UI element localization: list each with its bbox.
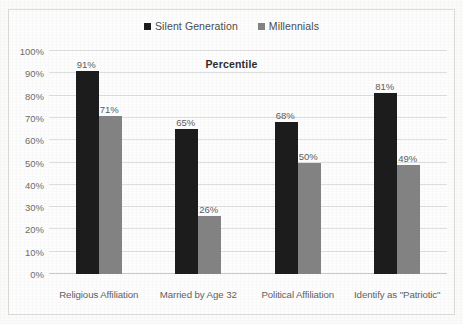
bar-value-label: 26% xyxy=(199,204,218,215)
bar[interactable] xyxy=(198,216,221,274)
y-axis-tick-label: 50% xyxy=(25,157,44,168)
bar-pair: 68%50% xyxy=(275,51,321,274)
bar-wrap: 91% xyxy=(76,51,99,274)
bar-value-label: 71% xyxy=(100,104,119,115)
y-axis-tick-label: 90% xyxy=(25,68,44,79)
bar-wrap: 68% xyxy=(275,51,298,274)
bar[interactable] xyxy=(397,165,420,274)
bar[interactable] xyxy=(99,116,122,274)
chart-frame: Silent Generation Millennials Percentile… xyxy=(8,9,455,315)
x-axis-tick-label: Identify as "Patriotic" xyxy=(348,289,448,300)
chart-legend: Silent Generation Millennials xyxy=(9,20,454,32)
y-axis-tick-label: 70% xyxy=(25,112,44,123)
y-axis-tick-label: 0% xyxy=(30,269,44,280)
y-axis-tick-label: 40% xyxy=(25,179,44,190)
bar-group: 91%71% xyxy=(49,51,149,274)
bar-group: 81%49% xyxy=(348,51,448,274)
bar-pair: 91%71% xyxy=(76,51,122,274)
bar-value-label: 65% xyxy=(176,117,195,128)
bar-value-label: 50% xyxy=(299,151,318,162)
legend-swatch-icon xyxy=(144,23,151,30)
bar-wrap: 71% xyxy=(99,51,122,274)
legend-item-millennials[interactable]: Millennials xyxy=(258,20,319,32)
legend-label: Silent Generation xyxy=(155,20,238,32)
bar-wrap: 81% xyxy=(374,51,397,274)
bar-pair: 65%26% xyxy=(175,51,221,274)
bar[interactable] xyxy=(175,129,198,274)
bar-group: 65%26% xyxy=(149,51,249,274)
bar[interactable] xyxy=(275,122,298,274)
bar-wrap: 50% xyxy=(298,51,321,274)
y-axis-tick-label: 10% xyxy=(25,246,44,257)
y-axis-tick-label: 20% xyxy=(25,224,44,235)
plot-area: 91%71%65%26%68%50%81%49% xyxy=(49,51,447,274)
bar-wrap: 49% xyxy=(397,51,420,274)
legend-item-silent-generation[interactable]: Silent Generation xyxy=(144,20,238,32)
bar[interactable] xyxy=(298,163,321,275)
bar-wrap: 26% xyxy=(198,51,221,274)
bar-wrap: 65% xyxy=(175,51,198,274)
bar-value-label: 81% xyxy=(375,81,394,92)
x-axis: Religious AffiliationMarried by Age 32Po… xyxy=(49,289,447,300)
bar-group: 68%50% xyxy=(248,51,348,274)
y-axis-tick-label: 100% xyxy=(20,46,44,57)
legend-label: Millennials xyxy=(269,20,319,32)
bar[interactable] xyxy=(374,93,397,274)
plot-title: Percentile xyxy=(205,58,257,70)
bars-layer: 91%71%65%26%68%50%81%49% xyxy=(49,51,447,274)
bar[interactable] xyxy=(76,71,99,274)
y-axis-tick-label: 30% xyxy=(25,202,44,213)
x-axis-tick-label: Married by Age 32 xyxy=(149,289,249,300)
y-axis: 0%10%20%30%40%50%60%70%80%90%100% xyxy=(9,51,49,274)
bar-value-label: 91% xyxy=(77,59,96,70)
y-axis-tick-label: 80% xyxy=(25,90,44,101)
y-axis-tick-label: 60% xyxy=(25,135,44,146)
chart-figure: Silent Generation Millennials Percentile… xyxy=(0,0,463,324)
x-axis-tick-label: Religious Affiliation xyxy=(49,289,149,300)
bar-pair: 81%49% xyxy=(374,51,420,274)
bar-value-label: 49% xyxy=(398,153,417,164)
bar-value-label: 68% xyxy=(276,110,295,121)
x-axis-tick-label: Political Affiliation xyxy=(248,289,348,300)
legend-swatch-icon xyxy=(258,23,265,30)
